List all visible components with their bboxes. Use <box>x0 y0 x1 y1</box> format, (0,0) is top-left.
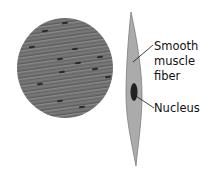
label-fiber: fiber <box>154 69 180 83</box>
label-nucleus: Nucleus <box>154 101 200 115</box>
label-smooth: Smooth <box>154 39 198 53</box>
fiber-nucleus <box>131 83 138 101</box>
smooth-muscle-fiber-illustration <box>0 0 205 172</box>
label-muscle: muscle <box>154 54 195 68</box>
